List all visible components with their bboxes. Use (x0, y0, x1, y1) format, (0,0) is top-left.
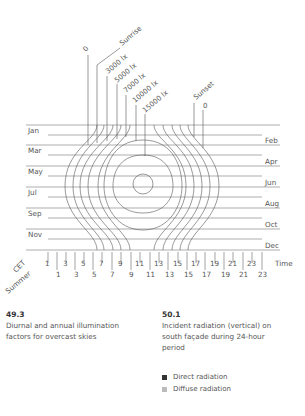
svg-text:Sunrise: Sunrise (118, 25, 143, 48)
svg-text:13: 13 (154, 259, 163, 268)
svg-text:Mar: Mar (28, 146, 42, 155)
caption-50-1: 50.1 Incident radiation (vertical) on so… (162, 309, 271, 353)
svg-text:Jul: Jul (27, 188, 37, 197)
caption-49-3: 49.3 Diurnal and annual illumination fac… (6, 309, 119, 342)
svg-text:0: 0 (203, 102, 207, 110)
month-lines (26, 125, 280, 250)
contour-labels: 0 Sunrise 3000 lx 5000 lx 7000 lx 10000 … (81, 25, 215, 115)
summer-tick-labels: 1 3 5 7 9 11 13 15 17 19 21 23 (56, 270, 267, 279)
svg-text:Jan: Jan (27, 126, 39, 135)
svg-text:11: 11 (146, 270, 155, 279)
caption-line: south façade during 24-hour (162, 331, 271, 342)
svg-text:23: 23 (258, 270, 267, 279)
svg-text:0: 0 (81, 45, 90, 54)
svg-text:17: 17 (191, 259, 200, 268)
svg-text:23: 23 (247, 259, 256, 268)
svg-text:21: 21 (228, 259, 237, 268)
square-icon (162, 375, 167, 380)
svg-text:Apr: Apr (265, 157, 277, 166)
legend-item-direct: Direct radiation (162, 371, 231, 383)
svg-text:9: 9 (118, 259, 123, 268)
figure-number: 49.3 (6, 309, 119, 320)
caption-line: Diurnal and annual illumination (6, 320, 119, 331)
svg-text:Aug: Aug (265, 199, 279, 208)
svg-text:Sunset: Sunset (192, 80, 216, 102)
illumination-diagram: 0 Sunrise 3000 lx 5000 lx 7000 lx 10000 … (0, 0, 305, 300)
legend-label: Diffuse radiation (173, 383, 231, 395)
svg-text:19: 19 (221, 270, 231, 279)
svg-text:15: 15 (184, 270, 193, 279)
svg-text:5: 5 (92, 270, 97, 279)
svg-text:Sep: Sep (28, 209, 42, 218)
svg-text:19: 19 (210, 259, 220, 268)
svg-text:3: 3 (63, 259, 68, 268)
square-icon (162, 387, 167, 392)
caption-line: factors for overcast skies (6, 331, 119, 342)
svg-text:15: 15 (173, 259, 182, 268)
svg-text:11: 11 (135, 259, 144, 268)
legend-item-diffuse: Diffuse radiation (162, 383, 231, 395)
cet-tick-labels: 1 3 5 7 9 11 13 15 17 19 21 23 (45, 259, 256, 268)
svg-text:7: 7 (99, 259, 104, 268)
svg-text:May: May (28, 167, 44, 176)
svg-text:5: 5 (81, 259, 86, 268)
svg-text:Jun: Jun (264, 178, 276, 187)
svg-text:Nov: Nov (28, 230, 43, 239)
svg-text:1: 1 (45, 259, 50, 268)
svg-text:Feb: Feb (265, 136, 278, 145)
legend-label: Direct radiation (173, 371, 227, 383)
caption-line: Incident radiation (vertical) on (162, 320, 271, 331)
svg-text:9: 9 (129, 270, 134, 279)
svg-text:17: 17 (202, 270, 211, 279)
caption-line: period (162, 342, 271, 353)
svg-text:Oct: Oct (265, 220, 278, 229)
svg-text:21: 21 (239, 270, 248, 279)
time-axis-label: Time (274, 259, 293, 268)
figure-number: 50.1 (162, 309, 271, 320)
svg-text:13: 13 (165, 270, 174, 279)
svg-text:1: 1 (56, 270, 61, 279)
month-labels-left: Jan Mar May Jul Sep Nov (27, 126, 44, 239)
radiation-legend: Direct radiation Diffuse radiation (162, 371, 231, 395)
svg-text:3: 3 (74, 270, 79, 279)
month-labels-right: Feb Apr Jun Aug Oct Dec (264, 136, 279, 250)
svg-text:Dec: Dec (265, 241, 279, 250)
svg-text:7: 7 (110, 270, 115, 279)
